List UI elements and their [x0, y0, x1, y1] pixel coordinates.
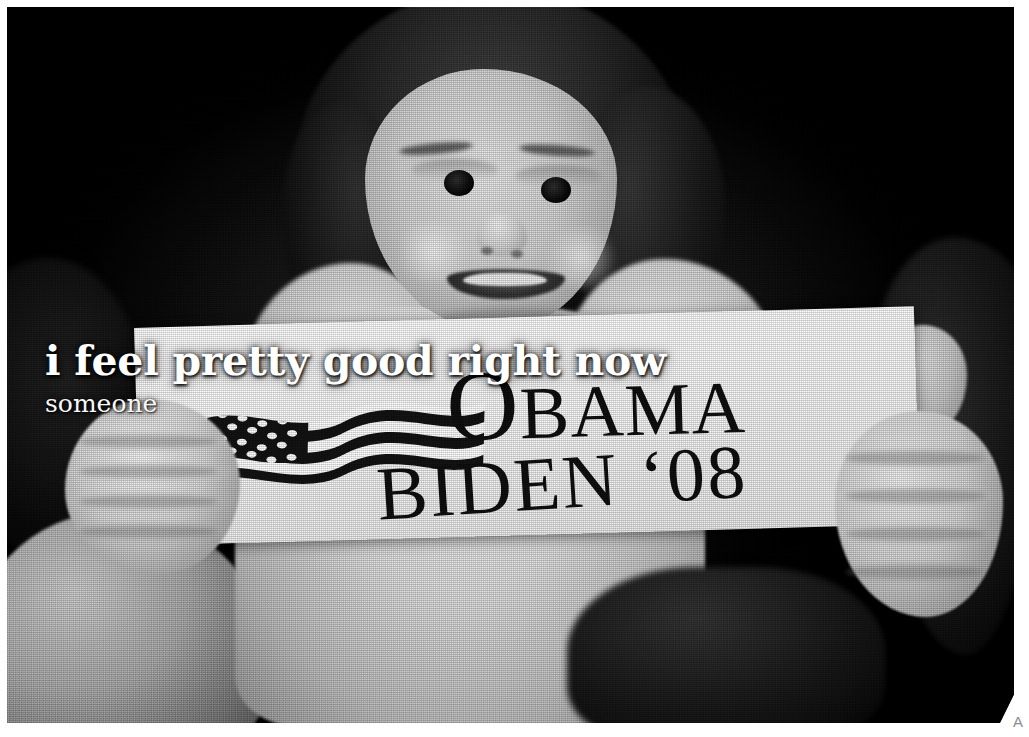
- caption-overlay: i feel pretty good right now someone: [45, 340, 666, 418]
- caption-attribution: someone: [45, 390, 666, 418]
- child-eye-right: [541, 177, 571, 203]
- child-lap-shadow: [567, 567, 887, 723]
- child-eye-left: [444, 170, 474, 196]
- child-teeth: [463, 273, 547, 286]
- photo-frame: OBAMA BIDEN ‘08 i feel pretty good: [7, 7, 1014, 723]
- child-nostril-left: [481, 247, 493, 255]
- child-nostril-right: [511, 250, 523, 258]
- page-root: OBAMA BIDEN ‘08 i feel pretty good: [0, 0, 1029, 737]
- caption-headline: i feel pretty good right now: [45, 340, 666, 383]
- child-hand-left: [65, 399, 240, 574]
- corner-mark-letter: A: [1013, 714, 1023, 729]
- sticker-text-biden: BIDEN ‘08: [375, 432, 750, 531]
